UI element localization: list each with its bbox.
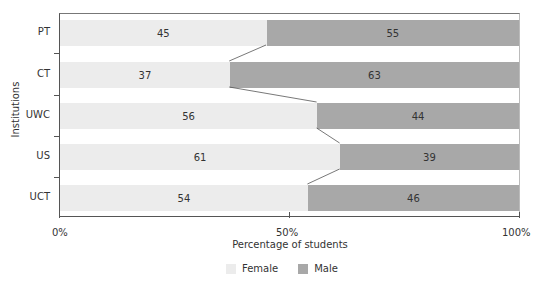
bar-male-uct: 46 [308, 185, 519, 211]
y-axis-title: Institutions [10, 75, 21, 145]
bar-female-uct: 54 [60, 185, 308, 211]
legend-item-male: Male [298, 263, 338, 274]
legend-item-female: Female [226, 263, 278, 274]
bar-female-pt: 45 [60, 20, 267, 46]
y-category-label-pt: PT [10, 26, 50, 37]
bar-row-us: 6139 [60, 144, 519, 170]
bar-male-us: 39 [340, 144, 519, 170]
legend-label-male: Male [314, 263, 338, 274]
legend-swatch-male [298, 264, 308, 274]
bar-row-pt: 4555 [60, 20, 519, 46]
x-tick-label-50: 50% [276, 227, 298, 238]
x-tick-label-0: 0% [52, 227, 68, 238]
bar-female-us: 61 [60, 144, 340, 170]
x-tick-50 [289, 212, 290, 218]
legend: Female Male [226, 263, 358, 274]
bar-row-uct: 5446 [60, 185, 519, 211]
x-tick-label-100: 100% [502, 227, 531, 238]
y-tick [54, 136, 60, 137]
x-tick-100 [519, 212, 520, 218]
legend-swatch-female [226, 264, 236, 274]
y-tick [54, 95, 60, 96]
bar-row-ct: 3763 [60, 62, 519, 88]
y-tick [54, 53, 60, 54]
bar-male-pt: 55 [267, 20, 519, 46]
stacked-bar-chart: 45553763564461395446 PTCTUWCUSUCT 0% 50%… [0, 0, 535, 291]
bar-male-ct: 63 [230, 62, 519, 88]
y-category-label-us: US [10, 150, 50, 161]
bar-row-uwc: 5644 [60, 103, 519, 129]
x-axis-title: Percentage of students [200, 239, 380, 250]
x-tick-0 [59, 212, 60, 218]
bar-female-uwc: 56 [60, 103, 317, 129]
y-tick [54, 177, 60, 178]
legend-label-female: Female [242, 263, 278, 274]
bar-female-ct: 37 [60, 62, 230, 88]
y-category-label-uct: UCT [10, 191, 50, 202]
bar-male-uwc: 44 [317, 103, 519, 129]
plot-area: 45553763564461395446 [59, 13, 520, 217]
